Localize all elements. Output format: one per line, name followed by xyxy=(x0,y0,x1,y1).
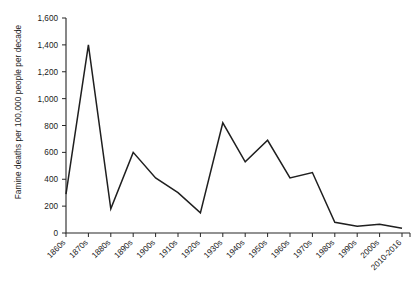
y-axis-tick-label: 1,200 xyxy=(38,68,59,77)
famine-deaths-line-chart: Famine deaths per 100,000 people per dec… xyxy=(0,0,418,286)
x-axis-tick-label: 1930s xyxy=(202,238,224,260)
y-axis-tick-label: 400 xyxy=(44,175,58,184)
x-axis-tick-label: 1950s xyxy=(247,238,269,260)
x-axis-tick-label: 1920s xyxy=(180,238,202,260)
y-axis-tick-label: 200 xyxy=(44,202,58,211)
x-axis-tick-label: 1870s xyxy=(68,238,90,260)
x-axis-tick-label: 1910s xyxy=(157,238,179,260)
x-axis-tick-label: 1900s xyxy=(135,238,157,260)
y-axis-ticks xyxy=(62,18,66,233)
x-axis-tick-label: 1890s xyxy=(112,238,134,260)
y-axis-tick-label: 1,600 xyxy=(38,14,59,23)
y-axis-tick-label: 600 xyxy=(44,148,58,157)
chart-axis-lines xyxy=(66,18,410,233)
chart-plot-area: 02004006008001,0001,2001,4001,600 1860s1… xyxy=(0,0,418,286)
y-axis-tick-label: 1,400 xyxy=(38,41,59,50)
y-axis-tick-label: 1,000 xyxy=(38,95,59,104)
x-axis-tick-label: 1960s xyxy=(269,238,291,260)
y-axis-tick-label: 0 xyxy=(53,229,58,238)
x-axis-ticks xyxy=(66,233,410,237)
x-axis-tick-label: 1970s xyxy=(292,238,314,260)
x-axis-tick-label: 1940s xyxy=(224,238,246,260)
x-axis-tick-label: 1880s xyxy=(90,238,112,260)
y-axis-tick-label: 800 xyxy=(44,122,58,131)
x-axis-tick-label: 1860s xyxy=(45,238,67,260)
x-axis-tick-label: 1980s xyxy=(314,238,336,260)
famine-deaths-series-line xyxy=(66,45,402,228)
x-axis-tick-labels: 1860s1870s1880s1890s1900s1910s1920s1930s… xyxy=(45,238,403,272)
y-axis-tick-labels: 02004006008001,0001,2001,4001,600 xyxy=(38,14,59,238)
x-axis-tick-label: 1990s xyxy=(336,238,358,260)
